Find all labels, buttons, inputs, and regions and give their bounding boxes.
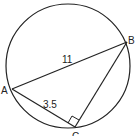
- segment-ab: [12, 42, 127, 89]
- segment-bc: [75, 42, 127, 127]
- label-ab-length: 11: [62, 54, 73, 65]
- label-c: C: [72, 131, 79, 136]
- label-a: A: [1, 85, 8, 96]
- right-angle-marker: [68, 116, 79, 123]
- label-b: B: [128, 35, 135, 46]
- geometry-diagram: A B C 11 3.5: [0, 0, 137, 136]
- label-ac-length: 3.5: [43, 99, 57, 110]
